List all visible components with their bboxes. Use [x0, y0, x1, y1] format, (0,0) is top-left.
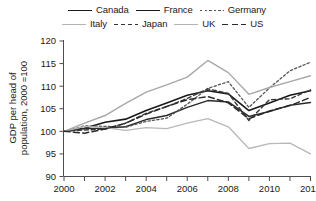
- series-line-canada: [64, 91, 311, 132]
- series-line-germany: [64, 62, 311, 131]
- legend-line-japan-icon: [114, 20, 138, 29]
- x-tick-label-2004: 2004: [136, 183, 157, 194]
- y-axis-title-line1: GDP per head of: [7, 72, 18, 143]
- y-tick-label-110: 110: [41, 81, 56, 92]
- y-tick-label-120: 120: [40, 35, 56, 46]
- y-tick-label-90: 90: [45, 171, 56, 182]
- legend-label-germany: Germany: [228, 5, 266, 15]
- x-tick-label-2010: 2010: [259, 183, 280, 194]
- y-tick-label-95: 95: [45, 148, 56, 159]
- x-tick-label-2000: 2000: [53, 183, 74, 194]
- legend-line-italy-icon: [62, 20, 86, 29]
- x-tick-label-2006: 2006: [177, 183, 198, 194]
- legend-item-germany[interactable]: Germany: [200, 5, 266, 15]
- y-axis: 9095100105110115120: [40, 35, 63, 182]
- legend-line-uk-icon: [174, 20, 198, 29]
- y-tick-label-115: 115: [41, 58, 56, 69]
- chart-legend: Canada France Germany Italy Japan U: [62, 3, 312, 33]
- legend-label-france: France: [164, 5, 193, 15]
- legend-item-japan[interactable]: Japan: [114, 19, 167, 29]
- legend-label-canada: Canada: [96, 5, 129, 15]
- x-tick-label-2008: 2008: [218, 183, 239, 194]
- legend-line-canada-icon: [68, 6, 92, 15]
- legend-item-uk[interactable]: UK: [174, 19, 215, 29]
- legend-label-italy: Italy: [90, 19, 107, 29]
- legend-label-japan: Japan: [142, 19, 167, 29]
- series-lines: [64, 60, 311, 154]
- legend-row-2: Italy Japan UK US: [62, 17, 312, 31]
- legend-line-france-icon: [136, 6, 160, 15]
- y-axis-title: GDP per head of population, 2000 =100: [7, 61, 29, 155]
- plot-svg: 9095100105110115120 20002002200420062008…: [0, 32, 316, 201]
- legend-line-us-icon: [222, 20, 246, 29]
- plot-area: 9095100105110115120 20002002200420062008…: [0, 32, 316, 201]
- legend-label-uk: UK: [202, 19, 215, 29]
- legend-item-italy[interactable]: Italy: [62, 19, 107, 29]
- legend-label-us: US: [250, 19, 263, 29]
- chart-container: Canada France Germany Italy Japan U: [0, 0, 316, 201]
- y-tick-label-100: 100: [40, 126, 56, 137]
- legend-row-1: Canada France Germany: [62, 3, 312, 17]
- x-tick-label-2012: 2012: [300, 183, 316, 194]
- legend-item-france[interactable]: France: [136, 5, 193, 15]
- legend-item-canada[interactable]: Canada: [68, 5, 129, 15]
- legend-item-us[interactable]: US: [222, 19, 263, 29]
- x-axis: 2000200220042006200820102012: [53, 177, 316, 194]
- x-tick-label-2002: 2002: [95, 183, 116, 194]
- legend-line-germany-icon: [200, 6, 224, 15]
- y-tick-label-105: 105: [40, 103, 56, 114]
- y-axis-title-line2: population, 2000 =100: [18, 61, 29, 155]
